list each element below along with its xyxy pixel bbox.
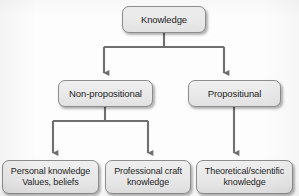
- node-personal-knowledge-label: Personal knowledge Values, beliefs: [11, 166, 90, 188]
- node-propositional-label: Propositiunal: [208, 88, 262, 100]
- node-propositional[interactable]: Propositiunal: [188, 80, 281, 107]
- node-professional-craft[interactable]: Professional craft knowledge: [105, 160, 191, 194]
- node-theoretical-scientific-label: Theoretical/scientific knowledge: [205, 166, 284, 188]
- node-knowledge[interactable]: Knowledge: [122, 6, 206, 33]
- node-professional-craft-label: Professional craft knowledge: [114, 166, 182, 188]
- node-non-propositional[interactable]: Non-propositional: [58, 80, 153, 107]
- node-theoretical-scientific[interactable]: Theoretical/scientific knowledge: [196, 160, 293, 194]
- node-knowledge-label: Knowledge: [141, 14, 187, 26]
- node-personal-knowledge[interactable]: Personal knowledge Values, beliefs: [2, 160, 99, 194]
- node-non-propositional-label: Non-propositional: [69, 88, 142, 100]
- knowledge-hierarchy-diagram: Knowledge Non-propositional Propositiuna…: [0, 0, 299, 196]
